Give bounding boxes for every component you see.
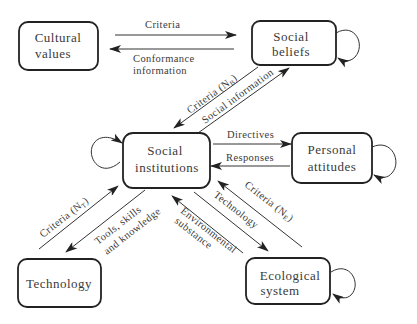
node-ecological-system: Ecological system <box>246 258 330 304</box>
arrow-tools-skills <box>66 190 145 252</box>
node-cultural-values: Cultural values <box>19 22 98 70</box>
node-personal-attitudes: Personal attitudes <box>292 133 372 183</box>
node-technology: Technology <box>18 259 101 307</box>
svg-text:Ecological: Ecological <box>260 268 321 283</box>
node-social-institutions: Social institutions <box>123 133 210 188</box>
svg-text:Social: Social <box>147 143 183 158</box>
label-directives: Directives <box>227 129 274 140</box>
self-loop-personal-attitudes <box>372 145 396 177</box>
label-conformance: Conformance <box>133 53 195 64</box>
label-responses: Responses <box>226 152 274 163</box>
svg-text:system: system <box>260 283 299 298</box>
svg-text:attitudes: attitudes <box>308 159 357 174</box>
self-loop-ecological-system <box>331 269 355 298</box>
svg-text:values: values <box>35 46 71 61</box>
self-loop-social-beliefs <box>336 30 359 61</box>
svg-text:Personal: Personal <box>308 142 357 157</box>
svg-text:beliefs: beliefs <box>272 44 310 59</box>
self-loop-social-institutions <box>91 137 122 168</box>
label-criteria: Criteria <box>145 19 180 30</box>
svg-text:Cultural: Cultural <box>35 30 82 45</box>
svg-text:Social: Social <box>273 29 309 44</box>
node-social-beliefs: Social beliefs <box>252 21 336 65</box>
diagram-canvas: Criteria Conformance information Criteri… <box>0 0 417 324</box>
label-criteria-nt: Criteria (NT) <box>37 195 91 241</box>
label-conformance-info: information <box>133 65 187 76</box>
svg-text:Technology: Technology <box>26 276 92 291</box>
svg-text:institutions: institutions <box>135 160 199 175</box>
